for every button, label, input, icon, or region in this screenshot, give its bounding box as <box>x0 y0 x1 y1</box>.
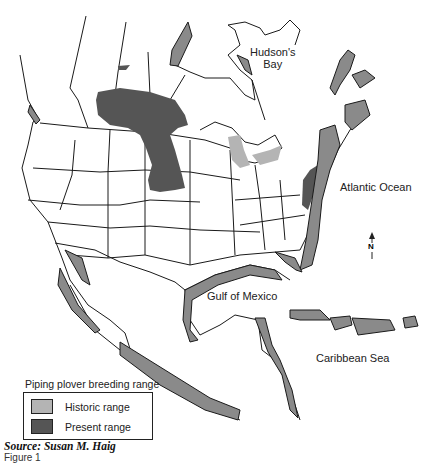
historic-swatch <box>31 399 53 414</box>
coast-band-hudson <box>170 22 192 66</box>
range-map <box>0 0 437 440</box>
province-border <box>20 55 28 100</box>
coast-band-florida <box>275 252 302 272</box>
coast-band-nova-scotia <box>345 100 370 130</box>
coast-band-small-island <box>403 316 418 328</box>
coast-band-newfoundland <box>352 70 375 88</box>
state-border <box>108 130 110 258</box>
hudsons-bay-label-line1: Hudson's <box>250 46 296 58</box>
north-arrow-icon: N <box>366 232 378 260</box>
hudsons-bay-label: Hudson's Bay <box>250 46 296 70</box>
province-border <box>148 52 150 95</box>
gulf-of-mexico-label: Gulf of Mexico <box>207 290 277 302</box>
caribbean-sea-label: Caribbean Sea <box>316 352 389 364</box>
legend-item-present: Present range <box>31 419 131 434</box>
coast-band-cuba <box>290 310 330 320</box>
state-border <box>235 195 300 200</box>
hudsons-bay-label-line2: Bay <box>250 58 296 70</box>
coast-band-labrador <box>330 50 355 95</box>
north-label: N <box>368 242 374 251</box>
state-border <box>280 180 285 240</box>
state-border <box>70 250 300 265</box>
coast-band-hispaniola <box>330 316 352 330</box>
atlantic-ocean-label: Atlantic Ocean <box>340 181 412 193</box>
state-border <box>48 222 260 232</box>
historic-range-great-lakes <box>228 135 250 168</box>
legend-label-historic: Historic range <box>65 401 130 413</box>
legend-item-historic: Historic range <box>31 399 130 414</box>
coast-band-yucatan <box>255 318 298 418</box>
present-swatch <box>31 419 53 434</box>
state-border <box>255 165 265 250</box>
legend-title: Piping plover breeding range <box>25 378 159 390</box>
coast-band-puerto <box>352 318 395 335</box>
legend-label-present: Present range <box>65 421 131 433</box>
state-border <box>240 215 305 225</box>
province-border <box>170 75 185 100</box>
state-border <box>60 140 75 210</box>
province-border <box>70 16 88 128</box>
state-border <box>230 150 235 255</box>
coast-band-vancouver <box>28 105 40 124</box>
source-caption: Source: Susan M. Haig <box>4 440 116 452</box>
state-border <box>28 200 200 205</box>
figure-caption: Figure 1 <box>4 452 41 463</box>
present-range-lake <box>118 65 130 70</box>
province-border <box>115 22 126 95</box>
state-border <box>33 168 240 180</box>
legend: Historic range Present range <box>23 392 153 440</box>
